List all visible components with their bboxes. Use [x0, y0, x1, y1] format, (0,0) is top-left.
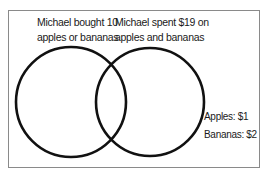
legend-apples: Apples: $1 [204, 108, 257, 126]
right-set-label-line2: apples and bananas [115, 30, 209, 45]
left-set-label: Michael bought 10 apples or bananas [37, 15, 118, 45]
left-set-label-line1: Michael bought 10 [37, 15, 118, 30]
right-set-label-line1: Michael spent $19 on [115, 15, 209, 30]
right-set-label: Michael spent $19 on apples and bananas [115, 15, 209, 45]
left-set-label-line2: apples or bananas [37, 30, 118, 45]
legend-bananas: Bananas: $2 [204, 126, 257, 144]
left-set-circle [16, 47, 126, 157]
price-legend: Apples: $1 Bananas: $2 [204, 108, 257, 144]
right-set-circle [96, 48, 204, 156]
